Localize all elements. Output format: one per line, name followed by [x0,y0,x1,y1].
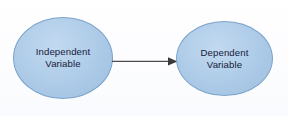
node-dependent-variable[interactable]: Dependent Variable [176,21,273,96]
node-independent-variable-label-line1: Independent [36,46,90,58]
diagram-canvas: Independent Variable Dependent Variable [0,0,288,116]
arrow-icon [104,50,184,74]
node-dependent-variable-label-line2: Variable [207,59,242,71]
node-independent-variable-label-line2: Variable [45,58,80,70]
node-dependent-variable-label-line1: Dependent [201,47,249,59]
node-independent-variable[interactable]: Independent Variable [13,17,113,99]
connector-arrow-container[interactable] [104,50,184,74]
